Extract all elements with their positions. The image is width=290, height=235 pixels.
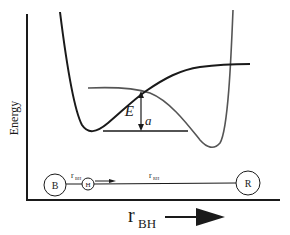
x-direction-arrowhead xyxy=(196,208,225,226)
x-axis-label-sub: BH xyxy=(138,216,156,231)
atom-h-label: H xyxy=(85,181,90,189)
h-motion-arrowhead xyxy=(109,179,116,183)
bond-label-bh-sub: BH xyxy=(75,176,82,181)
hr-potential-curve xyxy=(88,10,233,147)
arrow-down-head xyxy=(138,124,144,131)
bond-label-rh-sub: RH xyxy=(153,176,160,181)
atom-b-label: B xyxy=(52,180,59,191)
bh-potential-curve xyxy=(60,12,250,131)
activation-energy-label: E xyxy=(124,103,134,119)
y-axis-label: Energy xyxy=(7,101,21,135)
activation-energy-sub: a xyxy=(145,113,152,128)
ea-main: E xyxy=(124,103,134,119)
x-axis-label: r xyxy=(128,204,135,226)
potential-energy-diagram: Energy E a B H R r BH r RH r BH xyxy=(0,0,290,235)
atom-r-label: R xyxy=(245,178,252,189)
molecule-bond-hr xyxy=(94,183,236,184)
bond-label-rh: r xyxy=(149,171,152,180)
bond-label-bh: r xyxy=(71,171,74,180)
